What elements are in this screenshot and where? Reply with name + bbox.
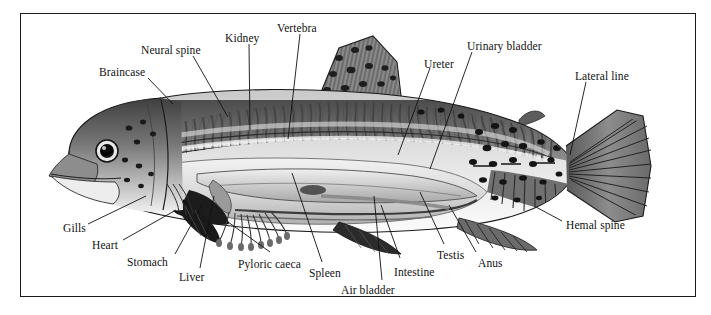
label-liver: Liver bbox=[179, 271, 204, 283]
label-air-bladder: Air bladder bbox=[341, 284, 395, 296]
artist-credit: GODKIN bbox=[0, 6, 16, 58]
label-braincase: Braincase bbox=[99, 66, 145, 78]
figure-page: GODKIN bbox=[0, 0, 711, 315]
eye bbox=[96, 140, 118, 162]
label-anus: Anus bbox=[478, 257, 503, 269]
fish-illustration bbox=[21, 14, 695, 296]
label-lateral-line: Lateral line bbox=[575, 70, 629, 82]
label-gills: Gills bbox=[63, 222, 86, 234]
label-urinary-bladder: Urinary bladder bbox=[467, 40, 542, 52]
label-heart: Heart bbox=[92, 239, 118, 251]
spleen-shape bbox=[300, 185, 326, 195]
label-pyloric-caeca: Pyloric caeca bbox=[238, 258, 301, 270]
label-spleen: Spleen bbox=[309, 267, 341, 279]
label-stomach: Stomach bbox=[127, 256, 168, 268]
label-hemal-spine: Hemal spine bbox=[566, 219, 625, 231]
label-testis: Testis bbox=[437, 249, 464, 261]
label-ureter: Ureter bbox=[424, 58, 454, 70]
label-vertebra: Vertebra bbox=[277, 22, 317, 34]
label-kidney: Kidney bbox=[225, 32, 259, 44]
label-intestine: Intestine bbox=[394, 266, 435, 278]
label-neural-spine: Neural spine bbox=[141, 44, 201, 56]
